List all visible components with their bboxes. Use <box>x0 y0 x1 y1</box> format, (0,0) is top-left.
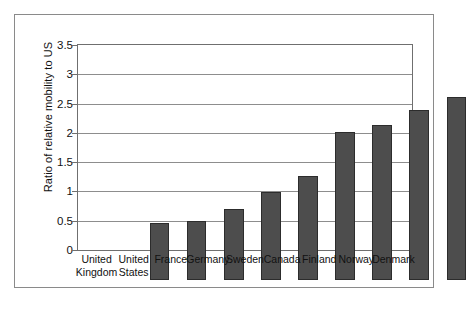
y-tick-label: 0 <box>17 244 73 256</box>
y-axis-tick-labels: 00.511.522.533.5 <box>15 44 73 250</box>
x-tick-label-line: States <box>111 266 156 279</box>
x-tick-label: Denmark <box>371 253 416 266</box>
y-tick-label: 1.5 <box>17 156 73 168</box>
bar-series <box>141 75 470 280</box>
plot-area <box>77 44 413 251</box>
y-tick-label: 0.5 <box>17 215 73 227</box>
y-tick-label: 3.5 <box>17 39 73 51</box>
x-axis-tick-labels: UnitedKingdomUnitedStatesFranceGermanySw… <box>78 253 412 287</box>
bar-chart: Ratio of relative mobility to US 00.511.… <box>15 15 435 289</box>
y-tick-label: 2.5 <box>17 98 73 110</box>
y-tick-label: 2 <box>17 127 73 139</box>
y-tick-label: 3 <box>17 68 73 80</box>
figure-frame: Ratio of relative mobility to US 00.511.… <box>14 14 434 288</box>
y-tick-label: 1 <box>17 185 73 197</box>
bar[interactable] <box>447 97 467 280</box>
x-tick-label-line: Denmark <box>371 253 416 266</box>
